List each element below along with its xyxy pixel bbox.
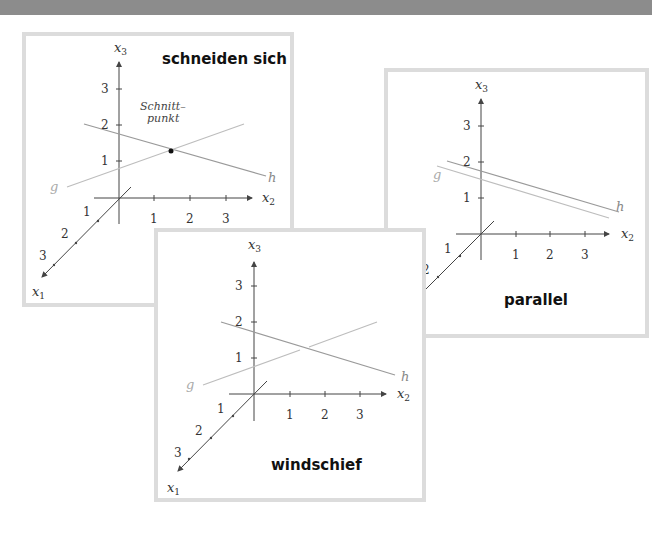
svg-text:h: h <box>268 170 276 185</box>
svg-text:3: 3 <box>463 119 471 133</box>
caption-skew: windschief <box>271 456 362 474</box>
svg-text:g: g <box>186 377 194 392</box>
svg-text:3: 3 <box>581 248 589 262</box>
svg-text:2: 2 <box>546 248 554 262</box>
svg-text:3: 3 <box>356 408 364 422</box>
svg-text:g: g <box>50 179 58 194</box>
svg-text:x2: x2 <box>397 386 410 403</box>
svg-text:3: 3 <box>235 279 243 293</box>
svg-text:3: 3 <box>174 446 182 460</box>
svg-text:x3: x3 <box>475 77 488 94</box>
svg-text:2: 2 <box>186 212 194 226</box>
line-g <box>203 350 300 385</box>
svg-text:1: 1 <box>286 408 294 422</box>
svg-text:h: h <box>616 199 624 214</box>
svg-text:x1: x1 <box>167 480 180 497</box>
top-gray-band <box>0 0 652 15</box>
svg-text:x3: x3 <box>114 40 127 57</box>
svg-text:1: 1 <box>235 351 243 365</box>
svg-text:2: 2 <box>61 227 69 241</box>
svg-text:1: 1 <box>217 402 225 416</box>
svg-text:2: 2 <box>101 118 109 132</box>
caption-parallel: parallel <box>504 291 568 309</box>
line-g <box>67 124 244 187</box>
line-g <box>309 322 377 347</box>
svg-text:x2: x2 <box>621 226 634 243</box>
panel-skew: 3 2 1 1 2 3 1 2 3 x3 x2 x1 g h windschie… <box>154 228 426 502</box>
svg-text:g: g <box>433 167 441 182</box>
line-h <box>221 322 395 375</box>
svg-text:x1: x1 <box>32 284 45 301</box>
svg-text:1: 1 <box>512 248 520 262</box>
svg-text:1: 1 <box>444 242 452 256</box>
x1-axis <box>42 187 131 277</box>
svg-text:punkt: punkt <box>147 112 180 125</box>
svg-text:1: 1 <box>463 191 471 205</box>
svg-text:3: 3 <box>222 212 230 226</box>
svg-text:1: 1 <box>101 154 109 168</box>
svg-text:1: 1 <box>83 205 91 219</box>
svg-text:2: 2 <box>195 424 203 438</box>
svg-text:x2: x2 <box>262 190 275 207</box>
line-h <box>447 161 619 212</box>
svg-text:h: h <box>401 369 409 384</box>
line-h <box>84 124 266 176</box>
svg-text:1: 1 <box>150 212 158 226</box>
svg-text:3: 3 <box>39 249 47 263</box>
svg-text:3: 3 <box>101 82 109 96</box>
svg-text:2: 2 <box>321 408 329 422</box>
svg-text:x3: x3 <box>248 237 261 254</box>
caption-intersecting: schneiden sich <box>162 50 287 68</box>
svg-text:2: 2 <box>235 315 243 329</box>
x1-axis <box>178 381 267 471</box>
intersection-point <box>169 149 174 154</box>
svg-text:2: 2 <box>463 155 471 169</box>
